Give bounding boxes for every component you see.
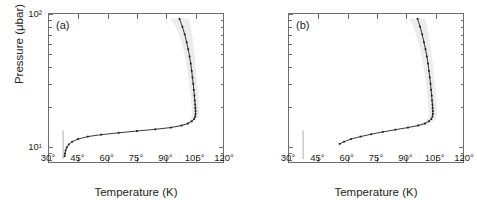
x-tick-top: [108, 14, 109, 19]
x-tick-top: [166, 14, 167, 19]
x-tick-label: 105°: [185, 152, 205, 163]
x-tick-label: 90°: [398, 152, 412, 163]
x-tick-label: 75°: [369, 152, 383, 163]
y-tick-minor: [461, 54, 464, 55]
y-tick-minor: [49, 44, 52, 45]
x-tick-top: [436, 14, 437, 19]
x-tick-top: [318, 14, 319, 19]
y-tick-minor: [461, 44, 464, 45]
y-tick-minor: [49, 20, 52, 21]
y-tick-minor: [289, 67, 292, 68]
x-tick-top: [78, 14, 79, 19]
x-tick-label: 60°: [99, 152, 113, 163]
panel-b-label: (b): [296, 19, 309, 31]
x-tick-label: 45°: [70, 152, 84, 163]
y-tick-minor: [49, 84, 52, 85]
x-tick-top: [348, 14, 349, 19]
y-tick-minor: [49, 67, 52, 68]
y-tick-minor: [289, 54, 292, 55]
panel-b-frame: (b): [288, 13, 464, 163]
y-tick-minor: [461, 107, 464, 108]
y-tick: [49, 14, 53, 15]
x-tick-label: 45°: [310, 152, 324, 163]
x-tick-label: 30°: [281, 152, 295, 163]
y-tick-minor: [221, 44, 224, 45]
x-tick-top: [196, 14, 197, 19]
y-tick-minor: [49, 54, 52, 55]
y-tick: [219, 147, 223, 148]
panel-b-plot-area: [289, 14, 463, 162]
y-tick: [459, 147, 463, 148]
y-tick-minor: [49, 27, 52, 28]
x-tick-label: 120°: [454, 152, 474, 163]
y-tick: [289, 14, 293, 15]
y-tick-minor: [461, 20, 464, 21]
y-tick-minor: [221, 20, 224, 21]
panel-b: (b): [288, 13, 464, 163]
panel-b-x-axis-title: Temperature (K): [288, 186, 464, 198]
y-tick-minor: [221, 54, 224, 55]
panel-a-x-axis-title: Temperature (K): [48, 186, 224, 198]
y-tick: [289, 147, 293, 148]
figure-atmospheric-temperature-profiles: Pressure (μbar) (a) (b) Temperature (K) …: [0, 0, 477, 208]
y-tick-minor: [461, 27, 464, 28]
y-tick: [49, 147, 53, 148]
y-tick-label: 10²: [28, 8, 48, 19]
panel-a-label: (a): [56, 19, 69, 31]
y-tick-minor: [461, 84, 464, 85]
y-tick-minor: [461, 35, 464, 36]
x-tick-label: 30°: [41, 152, 55, 163]
x-tick-label: 105°: [425, 152, 445, 163]
y-tick-minor: [221, 67, 224, 68]
y-tick-minor: [289, 44, 292, 45]
y-tick-minor: [221, 84, 224, 85]
y-tick-minor: [221, 107, 224, 108]
y-tick-minor: [461, 67, 464, 68]
x-tick-label: 90°: [158, 152, 172, 163]
x-tick-label: 75°: [129, 152, 143, 163]
y-tick-minor: [49, 35, 52, 36]
x-tick-top: [377, 14, 378, 19]
y-tick-minor: [221, 35, 224, 36]
x-tick-top: [137, 14, 138, 19]
y-tick-label: 10¹: [28, 141, 48, 152]
y-tick-minor: [289, 27, 292, 28]
x-tick-label: 60°: [339, 152, 353, 163]
y-tick-minor: [289, 35, 292, 36]
y-tick-minor: [289, 84, 292, 85]
y-tick-minor: [289, 20, 292, 21]
y-tick-minor: [289, 107, 292, 108]
x-tick-top: [406, 14, 407, 19]
panel-a: (a): [48, 13, 224, 163]
y-axis-title: Pressure (μbar): [13, 0, 25, 109]
y-tick-minor: [49, 107, 52, 108]
y-tick-minor: [221, 27, 224, 28]
panel-a-plot-area: [49, 14, 223, 162]
panel-a-frame: (a): [48, 13, 224, 163]
x-tick-label: 120°: [214, 152, 234, 163]
